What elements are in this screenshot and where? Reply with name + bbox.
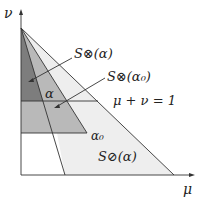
label-s-oslash-alpha: S⊘(α) xyxy=(98,150,137,163)
label-alpha0: α₀ xyxy=(91,130,104,142)
label-alpha: α xyxy=(45,87,54,100)
label-s-otimes-alpha: S⊗(α) xyxy=(74,47,113,60)
y-axis-label: ν xyxy=(4,6,13,20)
x-axis-arrowhead xyxy=(189,173,195,177)
label-line-equation: μ + ν = 1 xyxy=(113,94,176,107)
y-axis-arrowhead xyxy=(19,9,23,15)
label-s-otimes-alpha0: S⊗(α₀) xyxy=(107,70,151,83)
diagram-canvas: ν μ S⊗(α) S⊗(α₀) μ + ν = 1 α α₀ S⊘(α) xyxy=(0,0,204,198)
x-axis-label: μ xyxy=(183,182,192,196)
